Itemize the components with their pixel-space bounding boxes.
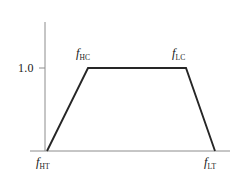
- x-label-flc-subscript: LC: [175, 53, 185, 62]
- x-label-fhc-subscript: HC: [79, 53, 90, 62]
- response-curve: [47, 68, 215, 151]
- x-label-flt: fLT: [204, 156, 216, 169]
- filter-response-figure: 1.0 fHC fLC fHT fLT: [0, 0, 242, 182]
- x-label-flt-subscript: LT: [207, 162, 216, 171]
- x-label-flc: fLC: [172, 47, 185, 60]
- y-axis-tick-label: 1.0: [18, 62, 34, 74]
- x-label-fht-subscript: HT: [39, 162, 49, 171]
- x-label-fht: fHT: [36, 156, 50, 169]
- x-label-fhc: fHC: [76, 47, 90, 60]
